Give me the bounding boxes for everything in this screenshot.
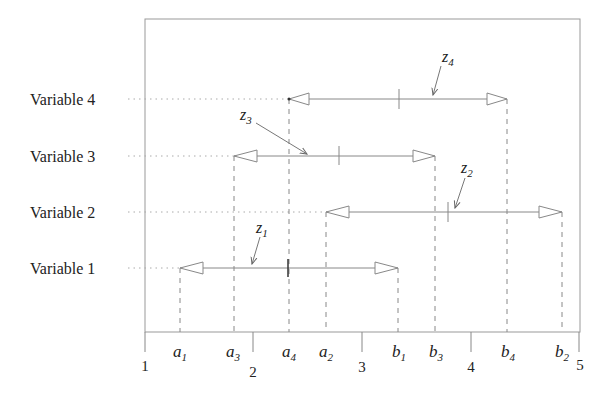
interval-variable-2 bbox=[326, 202, 562, 222]
variable-2-label: Variable 2 bbox=[30, 204, 95, 221]
right-arrow-icon bbox=[539, 206, 562, 218]
tick-label-1: 1 bbox=[141, 358, 149, 374]
a3-label: a3 bbox=[226, 342, 241, 363]
interval-variable-3 bbox=[234, 146, 435, 165]
z4-label: z4 bbox=[441, 48, 454, 68]
tick-label-4: 4 bbox=[467, 359, 475, 375]
variable-1-label: Variable 1 bbox=[30, 260, 95, 277]
z2-label: z2 bbox=[460, 159, 473, 179]
b4-label: b4 bbox=[501, 342, 516, 363]
z3-pointer-arrow bbox=[256, 123, 307, 154]
right-arrow-icon bbox=[413, 150, 435, 162]
z2-pointer-arrow bbox=[455, 178, 465, 208]
z4-pointer-arrow bbox=[433, 66, 441, 95]
plot-frame bbox=[145, 19, 580, 332]
tick-label-2: 2 bbox=[249, 364, 257, 380]
right-arrow-icon bbox=[375, 262, 398, 274]
variable-3-label: Variable 3 bbox=[30, 148, 95, 165]
a1-label: a1 bbox=[173, 342, 187, 363]
right-arrow-icon bbox=[487, 93, 507, 105]
variable-4-label: Variable 4 bbox=[30, 91, 95, 108]
z3-label: z3 bbox=[239, 106, 252, 126]
b1-label: b1 bbox=[392, 342, 406, 363]
leader-lines bbox=[128, 99, 326, 268]
a2-label: a2 bbox=[319, 342, 334, 363]
left-arrow-icon bbox=[180, 262, 203, 274]
tick-label-5: 5 bbox=[576, 357, 584, 373]
z1-label: z1 bbox=[255, 219, 268, 239]
tick-label-3: 3 bbox=[358, 359, 366, 375]
b3-label: b3 bbox=[429, 342, 444, 363]
x-axis bbox=[145, 332, 579, 352]
a4-label: a4 bbox=[282, 342, 297, 363]
z1-pointer-arrow bbox=[252, 237, 260, 264]
left-arrow-icon bbox=[234, 150, 257, 162]
left-arrow-icon bbox=[326, 206, 349, 218]
interval-variable-4 bbox=[288, 89, 508, 109]
interval-diagram: 1 2 3 4 5 Variable 4 Variable 3 Variable… bbox=[0, 0, 608, 401]
b2-label: b2 bbox=[555, 342, 570, 363]
left-arrow-icon bbox=[289, 93, 309, 105]
drop-lines bbox=[180, 99, 562, 332]
